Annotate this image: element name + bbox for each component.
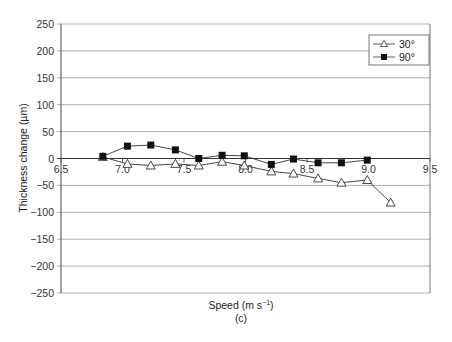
y-axis-label: Thickness change (µm) (17, 103, 29, 212)
y-axis-ticks: 250200150100500−50−100−150−200−250 (30, 18, 54, 299)
y-tick-label: −100 (30, 206, 54, 218)
legend-label-90: 90° (399, 51, 415, 63)
y-tick-label: 250 (36, 18, 54, 30)
square-marker-icon (290, 156, 297, 163)
figure-caption: (c) (235, 312, 247, 324)
square-marker-icon (241, 152, 248, 159)
square-marker-icon (99, 153, 106, 160)
square-marker-icon (338, 159, 345, 166)
square-marker-icon (315, 159, 322, 166)
y-tick-label: 100 (36, 99, 54, 111)
y-tick-label: 200 (36, 45, 54, 57)
square-marker-icon (124, 143, 131, 150)
thickness-change-chart: 250200150100500−50−100−150−200−250 6.57.… (0, 0, 452, 342)
square-marker-icon (172, 146, 179, 153)
y-tick-label: 50 (42, 126, 54, 138)
x-axis-label: Speed (m s−1) (208, 299, 273, 311)
legend: 30° 90° (369, 35, 429, 65)
y-tick-label: −200 (30, 260, 54, 272)
y-tick-label: −150 (30, 233, 54, 245)
square-marker-icon (219, 152, 226, 159)
x-tick-label: 8.5 (300, 163, 315, 175)
square-marker-icon (147, 142, 154, 149)
square-marker-icon (268, 161, 275, 168)
y-tick-label: −50 (36, 179, 54, 191)
x-tick-label: 9.0 (361, 163, 376, 175)
y-tick-label: −250 (30, 287, 54, 299)
legend-label-30: 30° (399, 38, 415, 50)
triangle-marker-icon (363, 176, 372, 184)
square-marker-icon (195, 155, 202, 162)
y-tick-label: 150 (36, 72, 54, 84)
series-30-deg (98, 152, 395, 206)
square-marker-icon (364, 157, 371, 164)
square-marker-icon (381, 54, 387, 60)
